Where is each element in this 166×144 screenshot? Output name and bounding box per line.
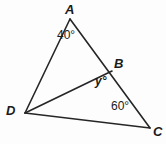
geometry-figure: A B C D 40° y° 60° <box>0 0 166 144</box>
vertex-label-c: C <box>153 125 162 138</box>
segment-d-c <box>25 113 150 128</box>
vertex-label-a: A <box>65 3 74 16</box>
figure-canvas <box>0 0 166 144</box>
angle-label-at-a: 40° <box>57 29 75 41</box>
segment-a-c <box>70 19 150 128</box>
vertex-label-b: B <box>114 57 123 70</box>
angle-label-at-c: 60° <box>111 100 129 112</box>
angle-label-at-b: y° <box>95 75 106 87</box>
vertex-label-d: D <box>6 104 15 117</box>
